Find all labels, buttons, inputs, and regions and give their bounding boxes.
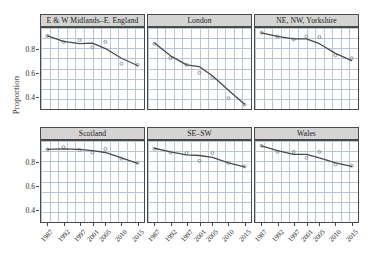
y-axis-tick-mark [36, 210, 39, 211]
x-axis-tick-label: 1992 [159, 228, 178, 248]
y-axis-tick-mark [36, 186, 39, 187]
panel-plot-area [147, 140, 252, 223]
y-axis-tick-label: 0.6 [13, 181, 35, 190]
x-axis-tick-mark [64, 223, 65, 226]
x-axis-tick-mark [352, 223, 353, 226]
x-axis-tick-label: 2010 [110, 228, 129, 248]
panel-data-series [148, 141, 251, 222]
x-axis-tick-mark [121, 223, 122, 226]
panel-strip-label: Scotland [40, 127, 145, 140]
x-axis-tick-mark [93, 223, 94, 226]
y-axis-tick-mark [36, 162, 39, 163]
facet-panel: NE, NW, Yorkshire [254, 14, 359, 110]
x-axis-tick-mark [335, 223, 336, 226]
y-axis-tick-label: 0.6 [13, 68, 35, 77]
x-axis-tick-mark [154, 223, 155, 226]
x-axis-tick-label: 2015 [126, 228, 145, 248]
x-axis-tick-label: 1992 [52, 228, 71, 248]
y-axis-tick-mark [36, 73, 39, 74]
panel-plot-area [147, 27, 252, 110]
x-axis-tick-mark [307, 223, 308, 226]
x-axis-tick-mark [212, 223, 213, 226]
x-axis-tick-mark [187, 223, 188, 226]
x-axis-tick-label: 1987 [36, 228, 55, 248]
facet-panel: Wales [254, 127, 359, 223]
facet-panel: SE–SW [147, 127, 252, 223]
x-axis-tick-label: 2010 [324, 228, 343, 248]
panel-strip-label: Wales [254, 127, 359, 140]
x-axis-tick-mark [80, 223, 81, 226]
x-axis-tick-mark [261, 223, 262, 226]
panel-plot-area [254, 27, 359, 110]
y-axis-tick-label: 0.4 [13, 92, 35, 101]
panel-strip-label: NE, NW, Yorkshire [254, 14, 359, 27]
panel-strip-label: SE–SW [147, 127, 252, 140]
y-axis-tick-label: 0.8 [13, 157, 35, 166]
x-axis-tick-mark [200, 223, 201, 226]
x-axis-tick-mark [319, 223, 320, 226]
x-axis-tick-label: 1987 [250, 228, 269, 248]
facet-panel: Scotland [40, 127, 145, 223]
panel-strip-label: E & W Midlands–E. England [40, 14, 145, 27]
panel-data-series [41, 141, 144, 222]
panel-data-series [41, 28, 144, 109]
y-axis-tick-mark [36, 97, 39, 98]
facet-panel: London [147, 14, 252, 110]
x-axis-tick-label: 2015 [233, 228, 252, 248]
x-axis-tick-mark [245, 223, 246, 226]
x-axis-tick-mark [171, 223, 172, 226]
x-axis-tick-label: 2015 [340, 228, 359, 248]
x-axis-tick-label: 1992 [266, 228, 285, 248]
panel-plot-area [254, 140, 359, 223]
x-axis-tick-mark [47, 223, 48, 226]
chart-root: Proportion E & W Midlands–E. EnglandLond… [0, 0, 380, 275]
y-axis-tick-label: 0.8 [13, 44, 35, 53]
x-axis-tick-mark [228, 223, 229, 226]
x-axis-tick-label: 1987 [143, 228, 162, 248]
x-axis-tick-label: 2010 [217, 228, 236, 248]
x-axis-tick-mark [105, 223, 106, 226]
panel-data-series [148, 28, 251, 109]
y-axis-tick-label: 0.4 [13, 205, 35, 214]
panel-strip-label: London [147, 14, 252, 27]
panel-plot-area [40, 27, 145, 110]
panel-data-series [255, 141, 358, 222]
facet-panel: E & W Midlands–E. England [40, 14, 145, 110]
x-axis-tick-mark [138, 223, 139, 226]
panel-plot-area [40, 140, 145, 223]
y-axis-tick-mark [36, 49, 39, 50]
x-axis-tick-mark [278, 223, 279, 226]
panel-data-series [255, 28, 358, 109]
x-axis-tick-mark [294, 223, 295, 226]
